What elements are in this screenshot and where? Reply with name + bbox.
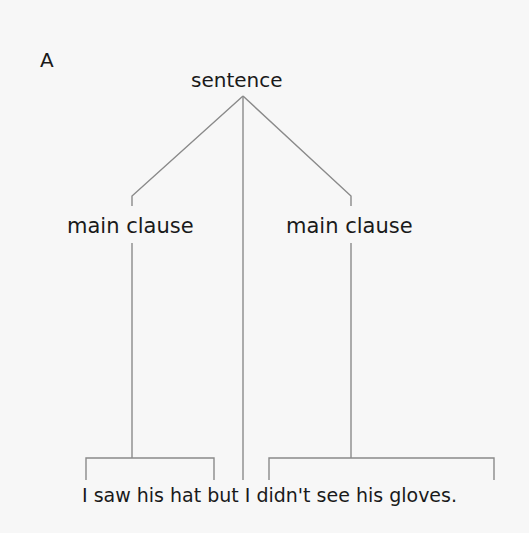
left-clause-label: main clause (67, 216, 194, 237)
edge-root-left-clause (132, 96, 243, 206)
right-clause-label: main clause (286, 216, 413, 237)
bracket-left-span (86, 458, 214, 480)
root-node-label: sentence (191, 70, 283, 90)
sentence-text: I saw his hat but I didn't see his glove… (82, 486, 457, 505)
bracket-right-span (269, 458, 494, 480)
edge-root-right-clause (243, 96, 351, 206)
panel-label: A (40, 50, 54, 70)
